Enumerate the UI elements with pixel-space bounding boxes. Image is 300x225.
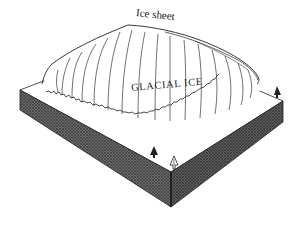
tree-icon: [274, 86, 281, 98]
ice-sheet-label: Ice sheet: [136, 6, 176, 22]
ice-sheet-diagram: Ice sheet GLACIAL ICE: [0, 0, 300, 225]
